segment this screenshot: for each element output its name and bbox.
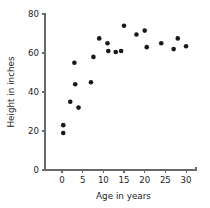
data-point bbox=[175, 36, 180, 41]
data-point bbox=[89, 80, 94, 85]
y-tick-label: 40 bbox=[28, 87, 39, 97]
x-axis-title: Age in years bbox=[96, 191, 151, 201]
y-tick-label: 60 bbox=[28, 48, 39, 58]
data-point bbox=[113, 50, 118, 55]
data-point bbox=[61, 131, 66, 136]
data-point bbox=[142, 28, 147, 33]
y-axis-title: Height in inches bbox=[6, 56, 16, 128]
data-point bbox=[134, 32, 139, 37]
data-point bbox=[68, 99, 73, 104]
x-tick-label: 0 bbox=[59, 175, 64, 185]
chart-axes bbox=[42, 14, 196, 170]
data-point bbox=[72, 60, 77, 65]
y-tick-label: 80 bbox=[28, 9, 39, 19]
chart-ticks bbox=[42, 14, 186, 173]
data-point bbox=[159, 41, 164, 46]
y-tick-label: 20 bbox=[28, 126, 39, 136]
y-tick-label: 0 bbox=[34, 165, 39, 175]
x-tick-label: 25 bbox=[160, 175, 171, 185]
data-point bbox=[61, 123, 66, 128]
data-point bbox=[119, 49, 124, 54]
chart-tick-labels: 020406080051015202530 bbox=[28, 9, 191, 185]
x-tick-label: 10 bbox=[98, 175, 109, 185]
chart-canvas: 020406080051015202530 Age in years Heigh… bbox=[0, 0, 210, 208]
data-point bbox=[184, 44, 189, 49]
data-point bbox=[91, 55, 96, 60]
data-point bbox=[97, 36, 102, 41]
data-point bbox=[105, 41, 110, 46]
x-tick-label: 20 bbox=[139, 175, 150, 185]
data-point bbox=[144, 45, 149, 50]
data-point bbox=[76, 105, 81, 110]
x-tick-label: 30 bbox=[181, 175, 192, 185]
data-points bbox=[61, 23, 188, 135]
data-point bbox=[171, 47, 176, 52]
x-tick-label: 5 bbox=[80, 175, 85, 185]
x-tick-label: 15 bbox=[119, 175, 130, 185]
data-point bbox=[73, 82, 78, 87]
data-point bbox=[122, 23, 127, 28]
data-point bbox=[106, 49, 111, 54]
scatter-chart: 020406080051015202530 Age in years Heigh… bbox=[0, 0, 210, 208]
